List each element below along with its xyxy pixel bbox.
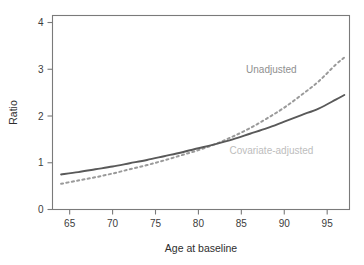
x-tick-label: 95 (322, 218, 334, 229)
y-tick-label: 3 (38, 64, 44, 75)
x-axis-title: Age at baseline (165, 242, 238, 254)
y-tick-label: 4 (38, 17, 44, 28)
x-tick-label: 70 (107, 218, 119, 229)
y-tick-label: 2 (38, 111, 44, 122)
x-tick-label: 80 (193, 218, 205, 229)
x-tick-label: 75 (150, 218, 162, 229)
ratio-vs-age-line-chart: 01234 65707580859095 UnadjustedCovariate… (0, 0, 364, 265)
chart-figure: 01234 65707580859095 UnadjustedCovariate… (0, 0, 364, 265)
y-axis-title: Ratio (7, 100, 19, 125)
annotation-covariate-adjusted: Covariate-adjusted (229, 145, 313, 156)
figure-background (0, 0, 364, 265)
x-tick-label: 65 (64, 218, 76, 229)
y-tick-label: 0 (38, 204, 44, 215)
annotation-unadjusted: Unadjusted (246, 64, 297, 75)
x-tick-label: 90 (279, 218, 291, 229)
x-tick-label: 85 (236, 218, 248, 229)
y-tick-label: 1 (38, 157, 44, 168)
